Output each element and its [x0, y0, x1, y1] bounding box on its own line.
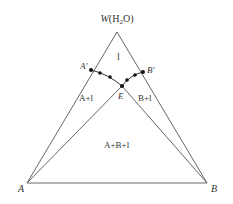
point-label-e: E — [117, 91, 124, 101]
point-label-b-prime: B′ — [147, 65, 155, 75]
vertex-label-b: B — [211, 183, 217, 194]
point-a-prime — [89, 68, 93, 72]
curve-b-prime-to-e — [122, 72, 143, 86]
curve-a-prime-to-e — [91, 70, 122, 86]
vertex-label-a: A — [17, 183, 25, 194]
curve-dot — [133, 73, 137, 77]
region-label-b-liquid: B+l — [138, 93, 152, 103]
region-label-ab-liquid: A+B+l — [104, 140, 130, 150]
region-label-liquid: l — [117, 51, 120, 62]
line-a-to-e — [27, 86, 122, 183]
vertex-label-water: W(H2O) — [101, 13, 134, 26]
point-label-a-prime: A′ — [79, 61, 88, 71]
region-label-a-liquid: A+l — [79, 93, 94, 103]
curve-dot — [98, 71, 102, 75]
point-b-prime — [141, 70, 145, 74]
point-e — [120, 84, 124, 88]
ternary-diagram: W(H2O) A B A′ B′ E l A+l B+l A+B+l — [0, 0, 233, 204]
curve-dot — [108, 75, 112, 79]
line-b-to-e — [122, 86, 207, 183]
curve-dot — [125, 78, 129, 82]
